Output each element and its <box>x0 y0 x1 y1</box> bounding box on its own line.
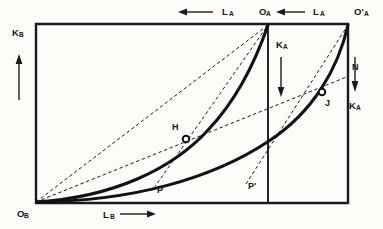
l-a-right-label: L <box>313 6 319 17</box>
l-b-axis-group: L B <box>103 209 156 220</box>
diagonal-ob-oa-line <box>36 25 268 202</box>
tangent-pprime-j-oaprime-line <box>246 25 348 184</box>
point-p-prime-label: P' <box>248 181 256 191</box>
isoquant-curves <box>37 25 348 202</box>
k-b-label: K <box>12 27 19 38</box>
point-j-label: J <box>325 98 330 108</box>
point-p-label: P <box>157 185 163 195</box>
point-n-label: N <box>352 62 359 72</box>
l-a-right-arrow-group: L A <box>276 6 325 17</box>
point-j-marker <box>319 89 326 96</box>
l-a-left-arrow-group: L A <box>178 6 234 17</box>
l-a-left-label-sub: A <box>229 10 234 17</box>
isoquant-right-curve <box>37 25 348 202</box>
k-b-axis-group: K B <box>12 27 24 100</box>
origin-a-prime-label: O' <box>354 6 364 17</box>
l-a-right-arrow-head <box>276 9 285 16</box>
k-a-inner-label: K <box>276 39 283 50</box>
k-a-outer-label: K <box>349 100 356 111</box>
origin-a-label-group: O A <box>259 6 271 17</box>
origin-b-label-group: O B <box>17 208 29 219</box>
origin-a-prime-label-group: O' A <box>354 6 369 17</box>
point-h-label: H <box>172 122 179 132</box>
contract-curve-ob-n-line <box>36 76 349 202</box>
k-a-inner-axis-group: K A <box>276 39 288 97</box>
origin-b-label-sub: B <box>24 212 29 219</box>
l-a-left-label: L <box>222 6 228 17</box>
origin-a-label-sub: A <box>266 10 271 17</box>
point-h-marker <box>183 136 190 143</box>
l-b-label: L <box>103 209 109 220</box>
k-a-inner-label-sub: A <box>283 43 288 50</box>
k-a-inner-arrow-head <box>278 87 285 97</box>
k-b-label-sub: B <box>19 31 24 38</box>
edgeworth-box-diagram: L A O A L A O' A K B O B <box>0 0 383 229</box>
l-b-label-sub: B <box>110 213 115 220</box>
tangent-p-h-oa-line <box>154 25 268 188</box>
figure-canvas: L A O A L A O' A K B O B <box>0 0 383 229</box>
l-b-arrow-head <box>147 211 156 218</box>
k-b-arrow-head <box>16 54 23 64</box>
origin-a-prime-label-sub: A <box>364 10 369 17</box>
k-a-outer-arrow-head <box>352 81 359 92</box>
k-a-outer-label-sub: A <box>356 104 361 111</box>
l-a-right-label-sub: A <box>320 10 325 17</box>
l-a-left-arrow-head <box>178 9 187 16</box>
